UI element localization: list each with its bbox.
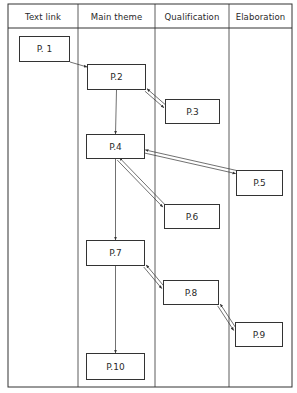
node-p5: P.5 (236, 170, 283, 196)
node-p3: P.3 (165, 99, 220, 124)
node-p7: P.7 (86, 240, 145, 266)
node-p4: P.4 (86, 134, 145, 159)
node-p1: P. 1 (19, 36, 70, 62)
node-p8: P.8 (163, 280, 219, 305)
node-p6: P.6 (164, 204, 220, 229)
node-p9: P.9 (235, 322, 283, 347)
lane-header-elaboration: Elaboration (229, 6, 292, 28)
node-p10: P.10 (86, 353, 145, 380)
node-p2: P.2 (87, 64, 146, 90)
lane-header-qualification: Qualification (155, 6, 229, 28)
lane-header-main-theme: Main theme (78, 6, 155, 28)
lane-header-text-link: Text link (8, 6, 78, 28)
